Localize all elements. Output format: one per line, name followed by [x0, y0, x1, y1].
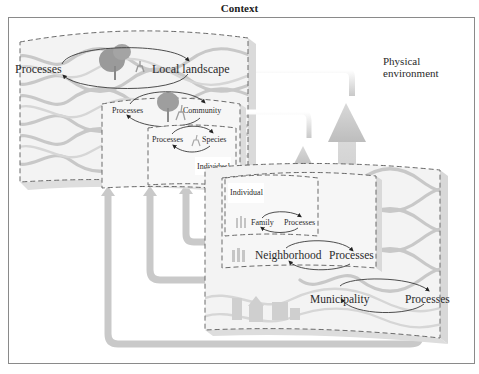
diagram-canvas: Processes Local landscape Processes Comm…: [0, 0, 479, 374]
neighborhood-label: Neighborhood: [255, 249, 322, 262]
processes-label: Processes: [329, 249, 374, 261]
species-label: Species: [202, 135, 226, 144]
local-landscape-label: Local landscape: [152, 62, 230, 76]
people-icon: [232, 248, 245, 262]
physical-environment-label-line1: Physical: [383, 55, 420, 67]
processes-label: Processes: [112, 106, 143, 115]
family-label: Family: [251, 218, 274, 227]
municipality-label: Municipality: [310, 293, 370, 306]
processes-label: Processes: [15, 62, 62, 76]
processes-label: Processes: [152, 135, 183, 144]
family-box: Individual Family Processes: [225, 175, 318, 236]
community-label: Community: [183, 106, 221, 115]
processes-label: Processes: [284, 218, 315, 227]
physical-environment-label-line2: environment: [383, 67, 439, 79]
individual-label: Individual: [230, 188, 264, 197]
processes-label: Processes: [405, 293, 450, 305]
